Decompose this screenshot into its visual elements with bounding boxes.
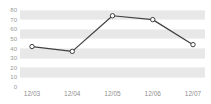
y-axis-tick-label: 30 [0,55,17,61]
data-point-marker[interactable] [110,14,114,18]
y-axis-tick-label: 20 [0,65,17,71]
data-point-marker[interactable] [70,49,74,53]
plot-area [20,10,205,87]
data-point-marker[interactable] [191,42,195,46]
y-axis-tick-label: 0 [0,84,17,90]
x-axis-tick-label: 12/07 [185,90,201,98]
data-point-marker[interactable] [30,44,34,48]
x-axis: 12/0312/0412/0512/0612/07 [20,90,205,102]
x-axis-tick-label: 12/05 [104,90,120,98]
clipped-title-region [0,0,211,5]
y-axis: 80706050403020100 [0,0,19,104]
data-point-marker[interactable] [151,17,155,21]
y-axis-tick-label: 50 [0,36,17,42]
plot-svg [20,10,205,87]
data-line [32,16,193,52]
y-axis-tick-label: 80 [0,7,17,13]
y-axis-tick-label: 10 [0,74,17,80]
x-axis-tick-label: 12/03 [24,90,40,98]
y-axis-tick-label: 60 [0,26,17,32]
y-axis-tick-label: 70 [0,17,17,23]
x-axis-tick-label: 12/06 [145,90,161,98]
line-chart: 80706050403020100 12/0312/0412/0512/0612… [0,0,211,104]
y-axis-tick-label: 40 [0,46,17,52]
x-axis-tick-label: 12/04 [64,90,80,98]
